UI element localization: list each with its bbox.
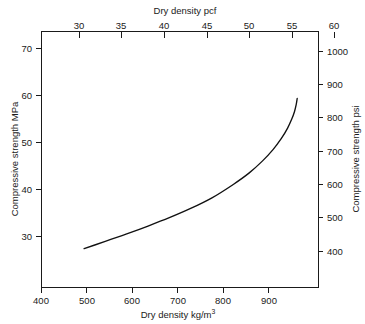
right-tick-label: 600 (327, 179, 343, 190)
bottom-axis-title-exponent: 3 (211, 308, 215, 315)
right-axis-tick-labels: 1000 900 800 700 600 500 400 (327, 46, 348, 257)
right-tick-label: 500 (327, 212, 343, 223)
bottom-tick-label: 600 (124, 295, 140, 306)
bottom-axis-title-text: Dry density kg/m (141, 309, 212, 320)
left-tick-label: 60 (21, 90, 32, 101)
right-tick-label: 900 (327, 79, 343, 90)
top-tick-label: 45 (202, 20, 213, 31)
compressive-strength-curve (84, 99, 297, 249)
bottom-tick-label: 500 (79, 295, 95, 306)
top-axis-tick-labels: 30 35 40 45 50 55 60 (74, 20, 340, 31)
chart-svg: Dry density pcf 30 35 40 45 50 55 60 (0, 0, 365, 324)
right-tick-label: 400 (327, 246, 343, 257)
bottom-tick-label: 700 (170, 295, 186, 306)
left-axis-title: Compressive strength MPa (9, 101, 20, 216)
right-tick-label: 1000 (327, 46, 348, 57)
plot-frame (42, 32, 319, 288)
bottom-axis-title: Dry density kg/m3 (141, 308, 216, 320)
left-tick-label: 30 (21, 231, 32, 242)
left-axis-tick-labels: 70 60 50 40 30 (21, 43, 32, 242)
left-tick-label: 40 (21, 184, 32, 195)
top-tick-label: 50 (244, 20, 255, 31)
left-tick-label: 70 (21, 43, 32, 54)
top-tick-label: 55 (287, 20, 298, 31)
bottom-tick-label: 900 (261, 295, 277, 306)
right-tick-label: 800 (327, 112, 343, 123)
right-axis-title: Compressive strength psi (350, 105, 361, 212)
top-tick-label: 30 (74, 20, 85, 31)
right-tick-label: 700 (327, 146, 343, 157)
top-axis-ticks (80, 32, 335, 38)
top-tick-label: 60 (329, 20, 340, 31)
bottom-axis-tick-labels: 400 500 600 700 800 900 (33, 295, 277, 306)
bottom-axis-ticks (42, 288, 269, 293)
top-tick-label: 35 (116, 20, 127, 31)
left-axis-ticks (36, 49, 41, 237)
bottom-tick-label: 800 (215, 295, 231, 306)
bottom-tick-label: 400 (33, 295, 49, 306)
left-tick-label: 50 (21, 137, 32, 148)
top-tick-label: 40 (159, 20, 170, 31)
chart-figure: Dry density pcf 30 35 40 45 50 55 60 (0, 0, 365, 324)
top-axis-title: Dry density pcf (154, 5, 217, 16)
